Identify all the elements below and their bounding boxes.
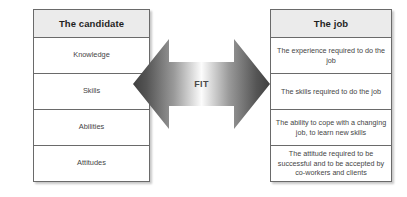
job-row-skills: The skills required to do the job (271, 74, 391, 110)
diagram-canvas: The candidate Knowledge Skills Abilities… (0, 0, 407, 197)
job-row-list: The experience required to do the job Th… (271, 38, 391, 181)
candidate-row-skills: Skills (34, 74, 149, 110)
job-row-experience: The experience required to do the job (271, 38, 391, 74)
job-row-ability: The ability to cope with a changing job,… (271, 110, 391, 146)
candidate-row-label: Knowledge (73, 50, 110, 60)
candidate-row-label: Attitudes (77, 158, 106, 168)
job-panel-header: The job (271, 10, 391, 38)
candidate-row-label: Skills (83, 86, 100, 96)
candidate-row-abilities: Abilities (34, 110, 149, 146)
job-row-label: The ability to cope with a changing job,… (275, 118, 387, 138)
job-row-label: The attitude required to be successful a… (275, 149, 387, 178)
fit-double-arrow: FIT (133, 37, 270, 131)
job-row-label: The skills required to do the job (281, 87, 381, 97)
job-row-label: The experience required to do the job (275, 46, 387, 66)
candidate-row-label: Abilities (79, 122, 104, 132)
candidate-row-attitudes: Attitudes (34, 146, 149, 181)
candidate-panel-header: The candidate (34, 10, 149, 38)
candidate-row-list: Knowledge Skills Abilities Attitudes (34, 38, 149, 181)
fit-label: FIT (133, 37, 270, 131)
job-panel: The job The experience required to do th… (270, 9, 392, 182)
job-row-attitude: The attitude required to be successful a… (271, 146, 391, 181)
candidate-row-knowledge: Knowledge (34, 38, 149, 74)
